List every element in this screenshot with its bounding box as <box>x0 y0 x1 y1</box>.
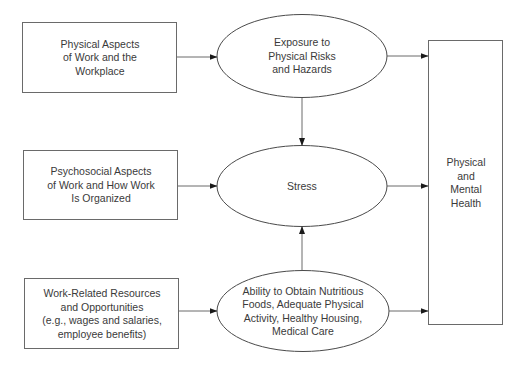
stress-ellipse <box>217 146 387 227</box>
exposure-ellipse <box>217 15 387 98</box>
ability-ellipse <box>217 271 389 352</box>
psychosocial-aspects-box <box>24 151 178 220</box>
physical-aspects-box <box>23 23 177 93</box>
health-box <box>429 41 503 325</box>
work-resources-box <box>25 279 179 349</box>
diagram-canvas <box>0 0 523 371</box>
